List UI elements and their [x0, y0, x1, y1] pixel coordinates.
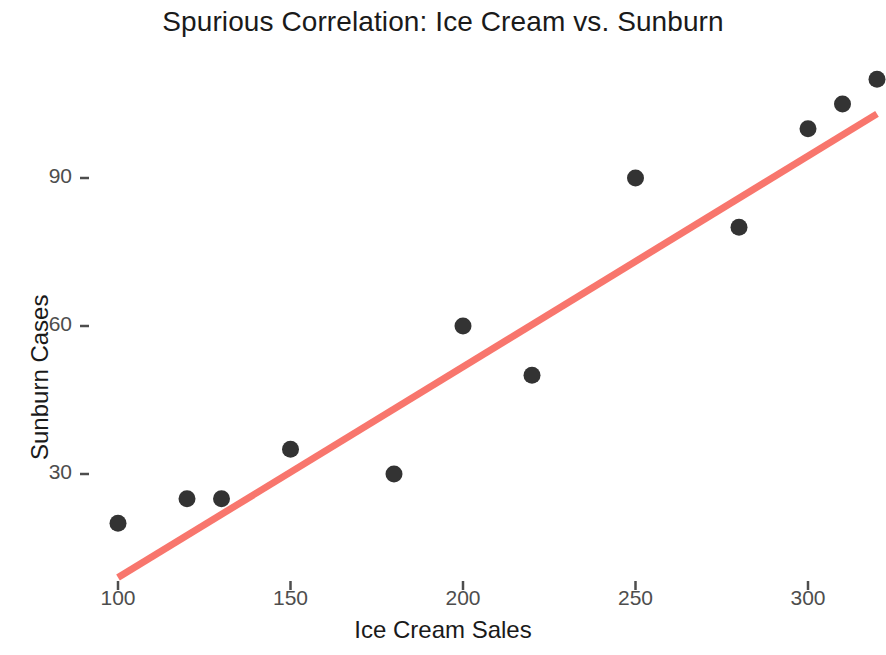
x-axis-title: Ice Cream Sales — [0, 616, 886, 644]
y-tick-label: 90 — [0, 164, 72, 188]
x-tick-label: 200 — [423, 586, 503, 610]
data-point — [869, 71, 886, 88]
data-points-group — [110, 71, 886, 532]
x-tick-label: 100 — [78, 586, 158, 610]
plot-area — [0, 0, 886, 655]
x-tick-label: 300 — [768, 586, 848, 610]
y-axis-title: Sunburn Cases — [26, 295, 54, 460]
data-point — [386, 466, 403, 483]
trendline — [118, 114, 877, 578]
data-point — [627, 170, 644, 187]
data-point — [731, 219, 748, 236]
data-point — [179, 490, 196, 507]
data-point — [110, 515, 127, 532]
y-tick-label: 30 — [0, 460, 72, 484]
data-point — [282, 441, 299, 458]
x-tick-label: 150 — [251, 586, 331, 610]
data-point — [524, 367, 541, 384]
trendline-group — [118, 114, 877, 578]
x-tick-label: 250 — [596, 586, 676, 610]
data-point — [800, 120, 817, 137]
chart-container: Spurious Correlation: Ice Cream vs. Sunb… — [0, 0, 886, 655]
data-point — [213, 490, 230, 507]
data-point — [455, 318, 472, 335]
data-point — [834, 96, 851, 113]
tick-marks-group — [80, 178, 808, 590]
